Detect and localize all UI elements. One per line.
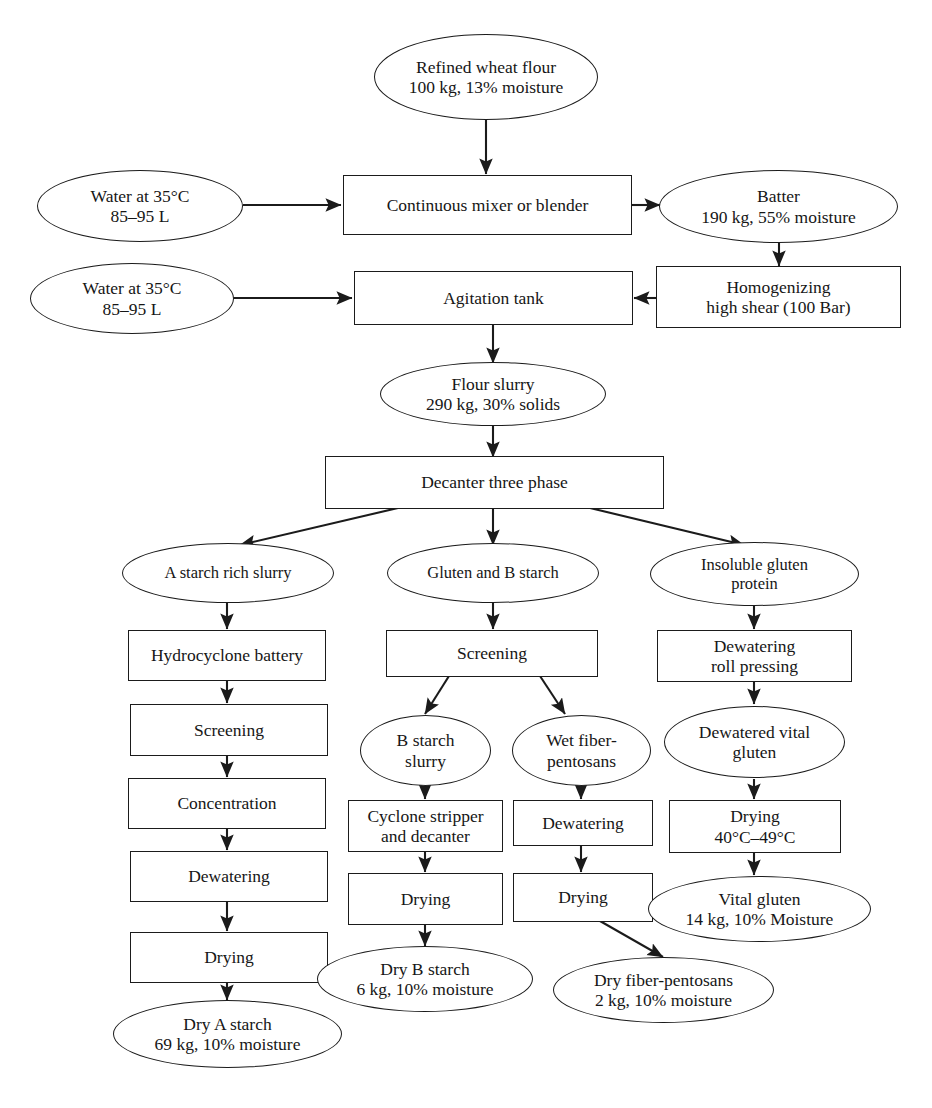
node-label: Drying 40°C–49°C [710, 806, 799, 847]
node-refined-wheat-flour[interactable]: Refined wheat flour 100 kg, 13% moisture [374, 34, 598, 120]
node-label: Gluten and B starch [423, 563, 563, 582]
node-batter[interactable]: Batter 190 kg, 55% moisture [659, 170, 898, 243]
node-cyclone-stripper-and-decanter[interactable]: Cyclone stripper and decanter [348, 800, 503, 852]
edge-decanter-to-insoluble [590, 508, 744, 545]
node-decanter-three-phase[interactable]: Decanter three phase [325, 456, 664, 509]
node-label: Dry B starch 6 kg, 10% moisture [352, 959, 497, 1000]
node-label: A starch rich slurry [161, 563, 296, 582]
node-dry-b-starch[interactable]: Dry B starch 6 kg, 10% moisture [317, 946, 533, 1012]
node-dewatering-roll-pressing[interactable]: Dewatering roll pressing [657, 630, 852, 682]
node-label: Cyclone stripper and decanter [363, 806, 487, 847]
node-homogenizing[interactable]: Homogenizing high shear (100 Bar) [656, 266, 901, 328]
node-label: Wet fiber- pentosans [542, 730, 621, 771]
node-label: Screening [190, 720, 268, 740]
node-label: Drying [200, 947, 258, 967]
flowchart-canvas: Refined wheat flour 100 kg, 13% moisture… [0, 0, 932, 1108]
node-label: Dewatering [184, 866, 274, 886]
node-label: B starch slurry [393, 730, 459, 771]
node-dewatering-left[interactable]: Dewatering [130, 851, 328, 902]
node-label: Decanter three phase [417, 472, 572, 492]
node-label: Vital gluten 14 kg, 10% Moisture [682, 889, 838, 930]
node-dewatering-mid[interactable]: Dewatering [513, 800, 653, 846]
edge-screening-to-b-starch [425, 676, 449, 714]
edge-screening-to-wet-fiber [540, 676, 565, 714]
node-water-2[interactable]: Water at 35°C 85–95 L [30, 263, 234, 334]
edge-drying-fiber-to-dry-fiber [600, 921, 663, 957]
node-label: Insoluble gluten protein [697, 555, 812, 593]
node-continuous-mixer[interactable]: Continuous mixer or blender [343, 175, 632, 235]
node-drying-mid-fiber[interactable]: Drying [513, 873, 653, 922]
node-a-starch-rich-slurry[interactable]: A starch rich slurry [122, 543, 334, 603]
node-dry-a-starch[interactable]: Dry A starch 69 kg, 10% moisture [113, 1000, 342, 1068]
node-label: Drying [554, 887, 612, 907]
node-label: Continuous mixer or blender [383, 195, 593, 215]
node-b-starch-slurry[interactable]: B starch slurry [360, 715, 491, 786]
node-label: Dewatering [538, 813, 628, 833]
node-vital-gluten[interactable]: Vital gluten 14 kg, 10% Moisture [648, 876, 871, 942]
node-label: Water at 35°C 85–95 L [87, 186, 194, 227]
node-dewatered-vital-gluten[interactable]: Dewatered vital gluten [664, 706, 845, 778]
node-label: Dewatering roll pressing [707, 636, 802, 677]
node-label: Dewatered vital gluten [695, 722, 814, 763]
node-screening-mid[interactable]: Screening [386, 630, 598, 677]
node-concentration[interactable]: Concentration [128, 778, 326, 829]
node-label: Agitation tank [439, 288, 548, 308]
node-label: Concentration [173, 793, 280, 813]
node-label: Water at 35°C 85–95 L [79, 278, 186, 319]
node-label: Dry fiber-pentosans 2 kg, 10% moisture [590, 970, 737, 1011]
node-drying-left[interactable]: Drying [130, 932, 328, 983]
node-insoluble-gluten-protein[interactable]: Insoluble gluten protein [650, 542, 859, 606]
node-label: Screening [453, 643, 531, 663]
node-label: Hydrocyclone battery [147, 645, 307, 665]
node-drying-mid-b[interactable]: Drying [348, 873, 503, 925]
node-screening-left[interactable]: Screening [130, 704, 328, 756]
node-label: Drying [397, 889, 455, 909]
node-water-1[interactable]: Water at 35°C 85–95 L [37, 170, 243, 242]
edge-decanter-to-a-slurry [240, 508, 398, 545]
node-label: Homogenizing high shear (100 Bar) [702, 277, 854, 318]
node-label: Dry A starch 69 kg, 10% moisture [151, 1014, 305, 1055]
node-dry-fiber-pentosans[interactable]: Dry fiber-pentosans 2 kg, 10% moisture [553, 957, 774, 1023]
node-wet-fiber-pentosans[interactable]: Wet fiber- pentosans [512, 715, 651, 786]
node-label: Batter 190 kg, 55% moisture [697, 186, 860, 227]
node-label: Refined wheat flour 100 kg, 13% moisture [405, 57, 568, 98]
node-agitation-tank[interactable]: Agitation tank [354, 271, 633, 325]
node-hydrocyclone-battery[interactable]: Hydrocyclone battery [128, 630, 326, 681]
node-gluten-and-b-starch[interactable]: Gluten and B starch [387, 543, 599, 603]
node-flour-slurry[interactable]: Flour slurry 290 kg, 30% solids [380, 362, 606, 426]
node-drying-right[interactable]: Drying 40°C–49°C [669, 800, 841, 853]
node-label: Flour slurry 290 kg, 30% solids [422, 374, 564, 415]
